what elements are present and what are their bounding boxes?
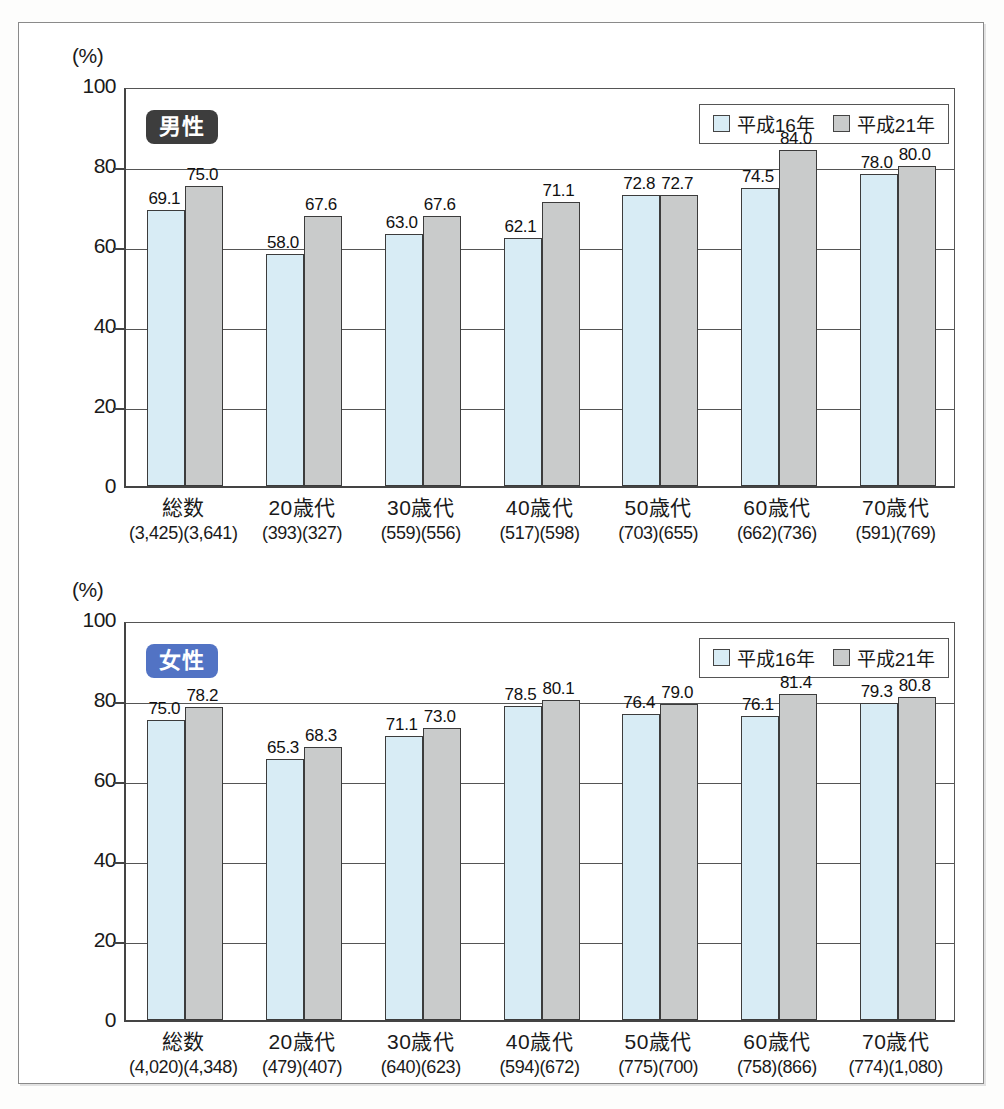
x-axis-category: 50歳代(703)(655) [599, 496, 718, 545]
bar-value-label: 71.1 [532, 181, 586, 201]
bar-女性-総数-平成16年 [147, 720, 185, 1020]
y-tick-label: 40 [60, 848, 116, 872]
x-axis-category: 70歳代(591)(769) [836, 496, 955, 545]
bar-value-label: 80.0 [888, 145, 942, 165]
bar-女性-20歳代-平成16年 [266, 759, 304, 1020]
bar-男性-40歳代-平成16年 [504, 238, 542, 486]
x-axis-category-name: 70歳代 [836, 1030, 955, 1054]
legend-item-h21: 平成21年 [833, 644, 935, 671]
x-axis-category: 20歳代(479)(407) [243, 1030, 362, 1079]
bar-男性-20歳代-平成21年 [304, 216, 342, 486]
y-axis-unit-label: (%) [72, 578, 103, 602]
gridline [126, 169, 954, 170]
y-tick-label: 40 [60, 314, 116, 338]
bar-value-label: 75.0 [175, 165, 229, 185]
bar-男性-総数-平成21年 [185, 186, 223, 486]
x-axis-category-name: 30歳代 [361, 1030, 480, 1054]
bar-value-label: 72.7 [650, 174, 704, 194]
x-axis-category-counts: (703)(655) [599, 522, 718, 545]
bar-男性-総数-平成16年 [147, 210, 185, 486]
x-axis-category-name: 60歳代 [718, 496, 837, 520]
bar-女性-50歳代-平成21年 [660, 704, 698, 1020]
y-tick-label: 20 [60, 928, 116, 952]
bar-男性-20歳代-平成16年 [266, 254, 304, 486]
bar-女性-70歳代-平成16年 [860, 703, 898, 1020]
y-tick-mark [113, 248, 124, 250]
y-tick-label: 100 [60, 74, 116, 98]
y-tick-label: 80 [60, 688, 116, 712]
x-axis-category-counts: (774)(1,080) [836, 1056, 955, 1079]
x-axis-category-counts: (758)(866) [718, 1056, 837, 1079]
bar-男性-30歳代-平成21年 [423, 216, 461, 486]
bar-女性-30歳代-平成16年 [385, 736, 423, 1020]
x-axis-category-counts: (393)(327) [243, 522, 362, 545]
x-axis-category-name: 20歳代 [243, 1030, 362, 1054]
bar-男性-40歳代-平成21年 [542, 202, 580, 486]
legend-item-h21: 平成21年 [833, 110, 935, 137]
y-tick-label: 80 [60, 154, 116, 178]
x-axis-category-counts: (3,425)(3,641) [124, 522, 243, 545]
bar-男性-30歳代-平成16年 [385, 234, 423, 486]
chart-page: (%) 100806040200 男性 平成16年平成21年 総数(3,425)… [0, 0, 1004, 1109]
bar-value-label: 58.0 [256, 233, 310, 253]
bar-男性-50歳代-平成21年 [660, 195, 698, 486]
y-tick-mark [113, 942, 124, 944]
x-axis-category: 30歳代(640)(623) [361, 1030, 480, 1079]
y-tick-label: 60 [60, 234, 116, 258]
y-tick-label: 0 [60, 474, 116, 498]
chart-female: (%) 100806040200 女性 平成16年平成21年 総数(4,020)… [0, 562, 1004, 1102]
y-tick-label: 0 [60, 1008, 116, 1032]
x-axis-category-counts: (775)(700) [599, 1056, 718, 1079]
x-axis-category-counts: (559)(556) [361, 522, 480, 545]
x-axis-category-counts: (591)(769) [836, 522, 955, 545]
legend-swatch-icon [713, 115, 730, 132]
x-axis-category-name: 50歳代 [599, 1030, 718, 1054]
bar-男性-70歳代-平成16年 [860, 174, 898, 486]
x-axis-category-name: 30歳代 [361, 496, 480, 520]
x-axis-category: 総数(4,020)(4,348) [124, 1030, 243, 1079]
bar-value-label: 76.1 [731, 695, 785, 715]
y-tick-mark [113, 702, 124, 704]
x-axis-category: 40歳代(517)(598) [480, 496, 599, 545]
bar-男性-60歳代-平成16年 [741, 188, 779, 486]
x-axis-category-name: 40歳代 [480, 1030, 599, 1054]
legend-label: 平成21年 [857, 644, 935, 671]
x-axis-category-name: 総数 [124, 1030, 243, 1054]
bar-女性-40歳代-平成21年 [542, 700, 580, 1020]
x-axis-category: 60歳代(758)(866) [718, 1030, 837, 1079]
bar-女性-20歳代-平成21年 [304, 747, 342, 1020]
bar-value-label: 74.5 [731, 167, 785, 187]
x-axis-category-counts: (4,020)(4,348) [124, 1056, 243, 1079]
x-axis-category-name: 60歳代 [718, 1030, 837, 1054]
bar-value-label: 84.0 [769, 129, 823, 149]
sex-badge-male: 男性 [146, 110, 218, 144]
x-axis-category-counts: (517)(598) [480, 522, 599, 545]
x-axis-category-name: 40歳代 [480, 496, 599, 520]
y-tick-mark [113, 862, 124, 864]
legend-swatch-icon [713, 649, 730, 666]
y-tick-mark [113, 408, 124, 410]
bar-value-label: 73.0 [413, 707, 467, 727]
legend-swatch-icon [833, 115, 850, 132]
bar-value-label: 81.4 [769, 673, 823, 693]
legend-male: 平成16年平成21年 [699, 104, 949, 144]
x-axis-category-counts: (640)(623) [361, 1056, 480, 1079]
x-axis-category: 50歳代(775)(700) [599, 1030, 718, 1079]
bar-value-label: 80.1 [532, 679, 586, 699]
bar-value-label: 67.6 [413, 195, 467, 215]
y-tick-mark [113, 328, 124, 330]
x-axis-category-name: 70歳代 [836, 496, 955, 520]
bar-女性-30歳代-平成21年 [423, 728, 461, 1020]
y-tick-mark [113, 782, 124, 784]
x-axis-category: 70歳代(774)(1,080) [836, 1030, 955, 1079]
legend-item-h16: 平成16年 [713, 644, 815, 671]
bar-男性-60歳代-平成21年 [779, 150, 817, 486]
bar-value-label: 78.2 [175, 686, 229, 706]
x-axis-category-name: 総数 [124, 496, 243, 520]
bar-女性-40歳代-平成16年 [504, 706, 542, 1020]
y-tick-mark [113, 168, 124, 170]
y-tick-label: 20 [60, 394, 116, 418]
legend-label: 平成21年 [857, 110, 935, 137]
x-axis-category-counts: (662)(736) [718, 522, 837, 545]
bar-value-label: 69.1 [137, 189, 191, 209]
